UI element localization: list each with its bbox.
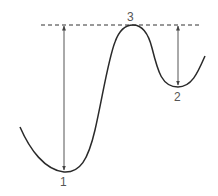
point-label-1: 1	[60, 175, 67, 189]
energy-diagram: 1 2 3	[0, 0, 218, 196]
point-label-3: 3	[127, 10, 134, 24]
point-label-2: 2	[174, 90, 181, 104]
